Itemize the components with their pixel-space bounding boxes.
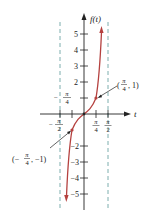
leader-pt1-arrow-icon <box>98 95 103 98</box>
x-axis-label: t <box>134 109 137 119</box>
y-axis-arrow-icon <box>82 13 87 20</box>
y-axis-label: f(t) <box>90 14 101 24</box>
tangent-graph: f(t) t 5 4 3 2 −2 −3 −4 −5 − π 4 − π 2 π… <box>0 0 149 218</box>
svg-text:, −1): , −1) <box>31 155 47 164</box>
origin-point <box>83 113 86 116</box>
svg-text:, 1): , 1) <box>128 81 139 90</box>
svg-text:π: π <box>57 117 61 124</box>
svg-text:π: π <box>94 118 98 125</box>
x-tick-neg-pi2-label: − π 2 <box>49 117 63 132</box>
x-tick-pi4-label: π 4 <box>93 118 100 133</box>
y-tick-4: 4 <box>74 46 78 55</box>
y-tick-neg2: −2 <box>70 142 79 151</box>
y-tick-3: 3 <box>74 62 78 71</box>
point-label-pi4-1: ( π 4 , 1) <box>117 77 139 92</box>
x-axis-arrow-icon <box>124 112 131 117</box>
svg-text:4: 4 <box>65 98 69 105</box>
y-tick-neg5: −5 <box>70 190 79 199</box>
y-tick-neg-pi4-label: − π 4 <box>54 90 71 105</box>
svg-text:(−: (− <box>12 155 20 164</box>
svg-text:2: 2 <box>106 126 109 133</box>
svg-text:π: π <box>65 90 69 97</box>
curve-top-arrow-icon <box>99 26 103 33</box>
svg-text:4: 4 <box>25 159 29 166</box>
svg-text:π: π <box>25 151 29 158</box>
point-pi4-1 <box>94 96 97 99</box>
svg-text:4: 4 <box>94 126 98 133</box>
point-neg-pi4-neg1 <box>70 128 73 131</box>
point-label-neg-pi4-neg1: (− π 4 , −1) <box>12 151 47 166</box>
x-tick-pi2-label: π 2 <box>105 118 112 133</box>
svg-text:−: − <box>54 94 58 102</box>
svg-text:π: π <box>106 118 110 125</box>
y-tick-neg3: −3 <box>70 158 79 167</box>
svg-text:π: π <box>122 77 126 84</box>
y-tick-5: 5 <box>74 30 78 39</box>
y-tick-2: 2 <box>74 78 78 87</box>
svg-text:−: − <box>49 121 53 129</box>
curve-bottom-arrow-icon <box>64 195 68 202</box>
svg-text:2: 2 <box>57 125 60 132</box>
svg-text:4: 4 <box>122 85 126 92</box>
y-tick-neg4: −4 <box>70 174 79 183</box>
svg-text:(: ( <box>117 81 120 90</box>
